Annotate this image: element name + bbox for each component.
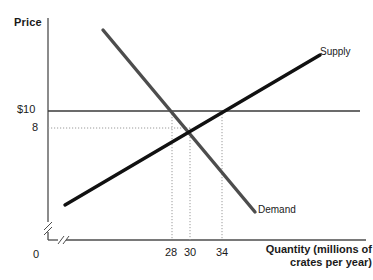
x-axis-title: Quantity (millions ofcrates per year): [246, 243, 372, 269]
supply-curve: [65, 55, 320, 205]
x-axis-title-line2: crates per year): [290, 256, 372, 268]
supply-demand-chart: Price $10 8 0 28 30 34 Supply Demand Qua…: [0, 0, 373, 280]
x-axis-break-mark-icon: [58, 236, 64, 244]
y-tick-label-8: 8: [32, 121, 38, 133]
x-axis-title-line1: Quantity (millions of: [266, 243, 372, 255]
demand-curve: [103, 30, 255, 212]
x-tick-label-28: 28: [165, 246, 177, 258]
x-tick-label-30: 30: [184, 246, 196, 258]
y-tick-label-10: $10: [17, 103, 35, 115]
y-axis-title: Price: [14, 16, 42, 28]
x-tick-label-34: 34: [216, 246, 228, 258]
demand-curve-label: Demand: [258, 204, 296, 215]
supply-curve-label: Supply: [320, 46, 351, 57]
origin-label: 0: [33, 248, 39, 260]
chart-canvas: [0, 0, 373, 280]
